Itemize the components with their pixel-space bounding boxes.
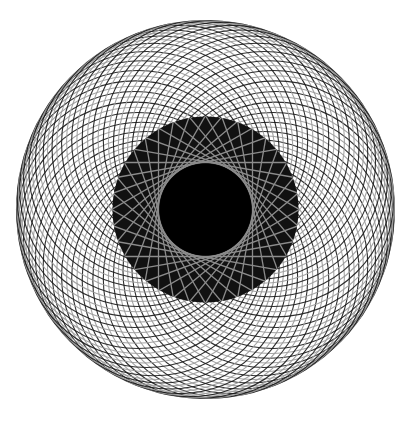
spirograph-artwork bbox=[0, 0, 411, 423]
center-black-disc bbox=[160, 164, 252, 256]
